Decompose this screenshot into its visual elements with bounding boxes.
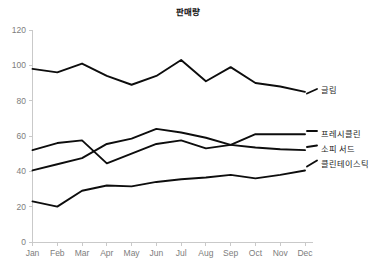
series-label: 클린테이스틱: [321, 159, 369, 169]
series-label-leader: [307, 161, 317, 167]
series-lines: [33, 60, 306, 207]
y-axis-tick-label: 100: [12, 60, 26, 70]
chart-plot-area: 020406080100120 JanFebMarAprMayJunJulAug…: [0, 0, 376, 275]
series-label: 프레시클린: [321, 129, 361, 139]
y-axis-tick-label: 0: [21, 237, 26, 247]
series-line: [33, 60, 306, 92]
series-label: 글림: [321, 85, 337, 95]
y-axis-tick-label: 60: [17, 131, 27, 141]
x-axis-tick-label: Jan: [26, 248, 40, 258]
y-axis-tick-label: 80: [17, 96, 27, 106]
y-axis-tick-label: 120: [12, 25, 26, 35]
series-label-leader: [307, 146, 317, 148]
x-axis-tick-label: Sep: [223, 248, 238, 258]
y-axis-tick-label: 20: [17, 202, 27, 212]
series-line: [33, 170, 306, 206]
sales-line-chart: 판매량 020406080100120 JanFebMarAprMayJunJu…: [0, 0, 376, 275]
x-axis-tick-label: Aug: [198, 248, 213, 258]
x-axis-tick-label: Jun: [150, 248, 164, 258]
series-label: 소피 서드: [321, 145, 355, 154]
series-label-leader: [307, 89, 317, 94]
x-axis-tick-label: Feb: [50, 248, 65, 258]
y-axis-tick-label: 40: [17, 166, 27, 176]
x-axis-tick-label: Nov: [273, 248, 289, 258]
x-axis-tick-label: Mar: [75, 248, 90, 258]
series-labels: 글림프레시클린소피 서드클린테이스틱: [307, 85, 369, 169]
x-axis-tick-label: Apr: [100, 248, 113, 258]
x-axis-tick-label: Oct: [249, 248, 263, 258]
x-axis-tick-label: Dec: [297, 248, 313, 258]
y-axis: 020406080100120: [12, 25, 33, 247]
x-axis: JanFebMarAprMayJunJulAugSepOctNovDec: [26, 242, 314, 258]
x-axis-tick-label: Jul: [176, 248, 187, 258]
x-axis-tick-label: May: [124, 248, 141, 258]
